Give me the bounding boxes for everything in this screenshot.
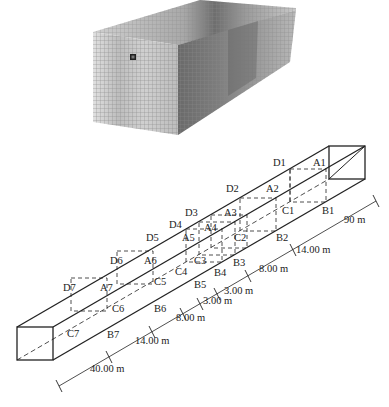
label-b7: B7: [107, 329, 119, 340]
label-b1: B1: [322, 205, 334, 216]
label-d3: D3: [185, 207, 198, 218]
label-d6: D6: [110, 255, 123, 266]
label-a6: A6: [144, 255, 157, 266]
dim-14m-left: 14.00 m: [135, 335, 169, 346]
figure-canvas: D1 D2 D3 D4 D5 D6 D7 A1 A2 A3 A4 A5 A6 A…: [0, 0, 389, 407]
label-c3: C3: [194, 255, 206, 266]
label-d1: D1: [273, 157, 286, 168]
label-a4: A4: [204, 222, 218, 233]
label-b6: B6: [154, 303, 166, 314]
label-c7: C7: [67, 328, 79, 339]
dim-8m-left: 8.00 m: [176, 312, 205, 323]
mesh-model: [93, 0, 296, 135]
label-c6: C6: [112, 303, 124, 314]
label-a5: A5: [182, 232, 195, 243]
dim-90m: 90 m: [344, 214, 365, 225]
dim-8m-right: 8.00 m: [259, 263, 288, 274]
label-a2: A2: [266, 183, 279, 194]
label-b3: B3: [233, 257, 245, 268]
dim-14m-right: 14.00 m: [296, 244, 330, 255]
label-c2: C2: [234, 232, 246, 243]
label-b2: B2: [276, 232, 288, 243]
label-d7: D7: [63, 282, 76, 293]
label-b4: B4: [214, 267, 227, 278]
label-d2: D2: [226, 183, 239, 194]
label-c5: C5: [154, 276, 166, 287]
label-d5: D5: [146, 232, 159, 243]
label-c4: C4: [175, 266, 188, 277]
dim-40m: 40.00 m: [90, 363, 124, 374]
label-d4: D4: [169, 219, 183, 230]
label-a1: A1: [313, 157, 326, 168]
label-a3: A3: [224, 207, 237, 218]
dim-3m-b: 3.00 m: [203, 295, 232, 306]
label-c1: C1: [282, 205, 294, 216]
label-b5: B5: [194, 279, 206, 290]
labels-b: B1 B2 B3 B4 B5 B6 B7: [107, 205, 334, 340]
labels-a: A1 A2 A3 A4 A5 A6 A7: [100, 157, 326, 293]
tunnel-schematic: [17, 146, 379, 392]
label-a7: A7: [100, 282, 113, 293]
